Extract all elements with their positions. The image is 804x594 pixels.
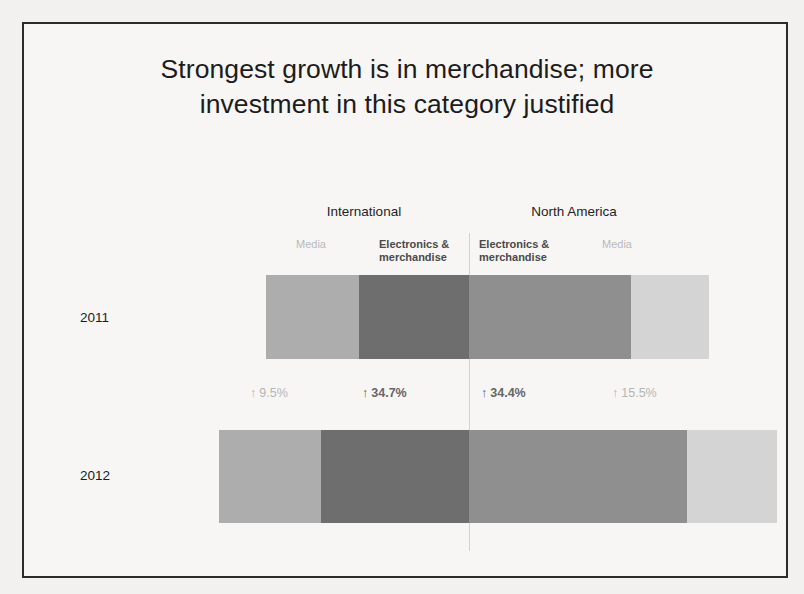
bar-row-2011	[266, 275, 709, 359]
arrow-up-icon: ↑	[250, 386, 256, 400]
bar-segment-2012-international-merch	[321, 430, 469, 523]
slide-frame: Strongest growth is in merchandise; more…	[22, 22, 788, 578]
year-label-2012: 2012	[80, 468, 110, 483]
category-label-international-media: Media	[296, 238, 382, 251]
arrow-up-icon: ↑	[612, 386, 618, 400]
bar-segment-2011-north-america-media	[631, 275, 709, 359]
bar-segment-2012-north-america-merch	[469, 430, 687, 523]
page-title-line-2: investment in this category justified	[64, 87, 750, 122]
growth-label-row: ↑9.5% ↑34.7% ↑34.4% ↑15.5%	[24, 386, 790, 410]
growth-value-international-merchandise: 34.7%	[371, 386, 406, 400]
category-label-north-america-merchandise: Electronics & merchandise	[479, 238, 575, 265]
category-label-international-merchandise: Electronics & merchandise	[379, 238, 475, 265]
bar-segment-2012-north-america-media	[687, 430, 777, 523]
growth-value-north-america-media: 15.5%	[621, 386, 656, 400]
region-header-international: International	[274, 204, 454, 219]
growth-value-international-media: 9.5%	[259, 386, 288, 400]
growth-label-north-america-merchandise: ↑34.4%	[481, 386, 526, 400]
bar-row-2012	[219, 430, 777, 523]
category-label-north-america-media: Media	[602, 238, 688, 251]
bar-segment-2011-international-merch	[359, 275, 469, 359]
page-title: Strongest growth is in merchandise; more…	[64, 52, 750, 122]
bar-segment-2011-north-america-merch	[469, 275, 631, 359]
arrow-up-icon: ↑	[362, 386, 368, 400]
bar-segment-2011-international-media	[266, 275, 359, 359]
growth-value-north-america-merchandise: 34.4%	[490, 386, 525, 400]
arrow-up-icon: ↑	[481, 386, 487, 400]
region-header-north-america: North America	[479, 204, 669, 219]
growth-label-international-media: ↑9.5%	[250, 386, 288, 400]
growth-label-international-merchandise: ↑34.7%	[362, 386, 407, 400]
bar-segment-2012-international-media	[219, 430, 321, 523]
page-title-line-1: Strongest growth is in merchandise; more	[64, 52, 750, 87]
growth-label-north-america-media: ↑15.5%	[612, 386, 657, 400]
year-label-2011: 2011	[80, 310, 109, 325]
